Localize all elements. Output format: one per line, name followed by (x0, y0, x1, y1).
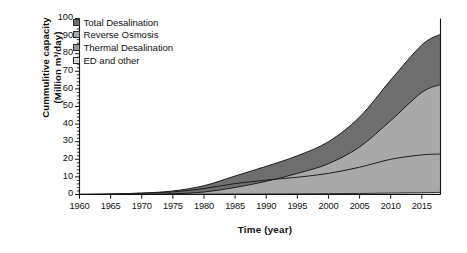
y-tick-label: 90 (47, 30, 73, 40)
y-tick-label: 20 (47, 153, 73, 163)
y-tick-label: 10 (47, 171, 73, 181)
y-tick-label: 70 (47, 65, 73, 75)
y-tick-label: 80 (47, 47, 73, 57)
legend-swatch-icon (73, 31, 80, 38)
legend-swatch-icon (73, 19, 80, 26)
y-tick-label: 60 (47, 83, 73, 93)
legend-label: ED and other (84, 55, 140, 66)
legend-item[interactable]: Reverse Osmosis (73, 29, 303, 42)
y-tick-label: 30 (47, 135, 73, 145)
y-tick-label: 0 (47, 188, 73, 198)
legend-swatch-icon (73, 44, 80, 51)
y-tick-label: 40 (47, 118, 73, 128)
legend-swatch-icon (73, 57, 80, 64)
chart-figure: Cummulitive capacity (Million m³/day) Ti… (0, 0, 467, 253)
legend-label: Thermal Desalination (84, 42, 174, 53)
y-tick-label: 100 (47, 12, 73, 22)
legend-label: Reverse Osmosis (84, 29, 159, 40)
legend-item[interactable]: ED and other (73, 54, 303, 67)
x-axis-title: Time (year) (70, 224, 460, 235)
legend-item[interactable]: Thermal Desalination (73, 41, 303, 54)
legend-label: Total Desalination (84, 17, 159, 28)
chart-legend: Total DesalinationReverse OsmosisThermal… (73, 16, 303, 66)
y-tick-label: 50 (47, 100, 73, 110)
legend-item[interactable]: Total Desalination (73, 16, 303, 29)
x-tick-label: 2015 (404, 201, 440, 211)
